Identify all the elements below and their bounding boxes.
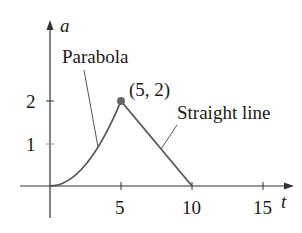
straight-line-label: Straight line [177,102,270,123]
y-axis-arrow-icon [47,20,54,30]
peak-label: (5, 2) [129,79,170,101]
x-axis-label: t [281,191,287,212]
y-tick-label-2: 2 [26,91,36,112]
x-tick-label-10: 10 [182,197,201,218]
x-tick-label-15: 15 [253,197,272,218]
y-tick-label-1: 1 [26,134,36,155]
x-tick-label-5: 5 [115,197,125,218]
parabola-curve [50,101,121,186]
acceleration-graph: a t Parabola (5, 2) Straight line 2 1 5 … [0,0,302,233]
straight-line-leader-line [161,125,177,149]
y-axis-label: a [60,15,70,36]
parabola-leader-line [84,70,98,147]
parabola-label: Parabola [62,46,129,67]
peak-marker [117,97,125,105]
x-axis-arrow-icon [284,183,294,190]
graph-svg: a t Parabola (5, 2) Straight line 2 1 5 … [0,0,302,233]
